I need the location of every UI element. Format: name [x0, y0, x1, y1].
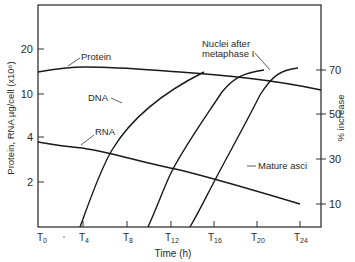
protein-label: Protein: [81, 51, 111, 62]
svg-text:T24: T24: [294, 232, 308, 244]
svg-text:T20: T20: [251, 232, 265, 244]
y-right-tick-label: 30: [329, 153, 341, 165]
y-left-tick-label: 10: [21, 88, 33, 100]
svg-text:T12: T12: [165, 232, 179, 244]
svg-text:T4: T4: [79, 232, 89, 244]
svg-text:T0: T0: [37, 232, 47, 244]
nuclei-curve: [148, 70, 264, 227]
y-right-tick-label: 10: [329, 198, 341, 210]
svg-text:T16: T16: [208, 232, 222, 244]
rna-label: RNA: [95, 126, 116, 137]
dna-label: DNA: [88, 92, 109, 103]
y-right-tick-label: 70: [329, 64, 341, 76]
y-left-axis: [38, 49, 44, 182]
rna-curve: [38, 142, 300, 204]
y-left-axis-title: Protein, RNA µg/cell (x10⁶): [5, 61, 16, 174]
nuclei-label-line2: metaphase I: [202, 48, 254, 59]
y-left-tick-label: 2: [27, 176, 33, 188]
mature-asci-curve: [190, 68, 298, 227]
svg-text:T8: T8: [123, 232, 133, 244]
x-minor-mark: [63, 236, 65, 238]
chart: 20 10 4 2 70 50 30 10 T0 T4 T8 T12 T16 T…: [0, 0, 355, 262]
x-axis-title: Time (h): [155, 248, 192, 259]
plot-frame: [38, 5, 321, 227]
y-left-tick-label: 4: [27, 131, 33, 143]
y-right-axis-title: % increase: [335, 95, 346, 142]
y-left-tick-label: 20: [21, 43, 33, 55]
annotation-arrows: [68, 53, 270, 166]
chart-svg: 20 10 4 2 70 50 30 10 T0 T4 T8 T12 T16 T…: [0, 0, 355, 262]
protein-curve: [38, 67, 321, 90]
mature-asci-label: Mature asci: [258, 160, 307, 171]
x-tick-labels: T0 T4 T8 T12 T16 T20 T24: [37, 232, 308, 244]
